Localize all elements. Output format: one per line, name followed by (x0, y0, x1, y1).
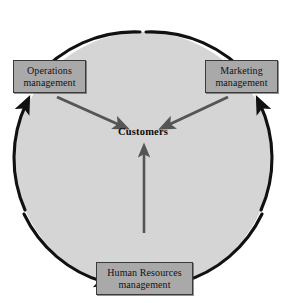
node-marketing-management[interactable]: Marketing management (205, 60, 278, 93)
node-marketing-line1: Marketing (220, 65, 263, 77)
node-operations-line1: Operations (27, 65, 72, 77)
node-operations-management[interactable]: Operations management (13, 60, 86, 93)
node-human-resources-management[interactable]: Human Resources management (96, 262, 193, 295)
node-marketing-line2: management (215, 77, 267, 89)
diagram-graphics (0, 0, 286, 303)
node-operations-line2: management (23, 77, 75, 89)
node-hr-line1: Human Resources (107, 267, 182, 279)
diagram-canvas: Customers Operations management Marketin… (0, 0, 286, 303)
center-label-customers: Customers (0, 126, 286, 137)
node-hr-line2: management (118, 279, 170, 291)
